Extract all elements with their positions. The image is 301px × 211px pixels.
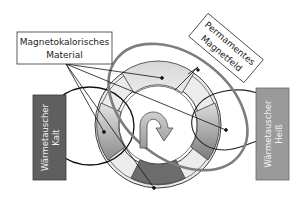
heat-exchanger-hot: Wärmetauscher Heiß bbox=[256, 88, 289, 180]
permanent-magnet-label: Permamentes Magnetfeld bbox=[189, 13, 263, 82]
heat-exchanger-hot-line2: Heiß bbox=[274, 124, 284, 143]
magnetocaloric-label: Magnetokalorisches Material bbox=[17, 32, 112, 64]
heat-exchanger-cold-line2: Kalt bbox=[51, 129, 61, 146]
heat-exchanger-cold: Wärmetauscher Kalt bbox=[33, 95, 66, 180]
magnetocaloric-label-line2: Material bbox=[46, 50, 83, 60]
heat-exchanger-cold-line1: Wärmetauscher bbox=[40, 103, 50, 171]
heat-exchanger-hot-line1: Wärmetauscher bbox=[263, 100, 273, 168]
magnetocaloric-label-line1: Magnetokalorisches bbox=[20, 37, 110, 47]
magnetocaloric-diagram: Magnetokalorisches Material Permamentes … bbox=[0, 0, 301, 211]
